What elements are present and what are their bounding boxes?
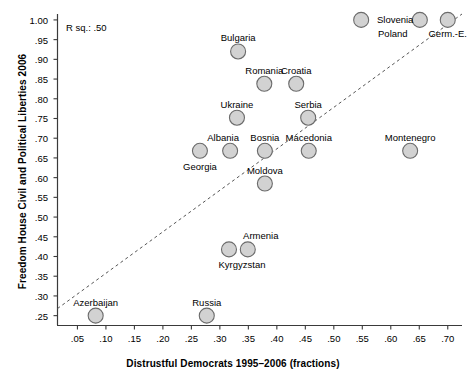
data-point-label: Georgia bbox=[183, 161, 217, 172]
data-point-marker[interactable] bbox=[257, 176, 272, 191]
x-axis-tick-label: .50 bbox=[327, 333, 340, 344]
data-point-label: Serbia bbox=[294, 99, 321, 110]
x-axis-tick-label: .25 bbox=[185, 333, 198, 344]
data-point-label: Albania bbox=[207, 132, 239, 143]
x-axis-title: Distrustful Democrats 1995–2006 (fractio… bbox=[0, 358, 466, 369]
data-point-marker[interactable] bbox=[440, 12, 455, 27]
x-axis-tick-label: .45 bbox=[299, 333, 312, 344]
data-point-label: Armenia bbox=[243, 230, 278, 241]
x-axis-tick-label: .70 bbox=[441, 333, 454, 344]
x-axis-tick-label: .05 bbox=[71, 333, 84, 344]
y-axis-title: Freedom House Civil and Political Libert… bbox=[17, 12, 28, 332]
x-axis-tick-label: .15 bbox=[128, 333, 141, 344]
data-point-marker[interactable] bbox=[229, 110, 244, 125]
x-axis-tick-label: .60 bbox=[384, 333, 397, 344]
y-axis-tick-label: .55 bbox=[8, 192, 48, 203]
data-point-marker[interactable] bbox=[289, 76, 304, 91]
y-axis-tick-label: .60 bbox=[8, 172, 48, 183]
data-point-marker[interactable] bbox=[301, 143, 316, 158]
x-axis-tick-label: .30 bbox=[213, 333, 226, 344]
y-axis-tick-label: .80 bbox=[8, 93, 48, 104]
y-axis-tick-label: .90 bbox=[8, 54, 48, 65]
data-point-label: Germ.-E. bbox=[428, 28, 467, 39]
data-point-label: Slovenia bbox=[377, 14, 413, 25]
data-point-label: Croatia bbox=[281, 65, 312, 76]
data-point-label: Ukraine bbox=[221, 99, 254, 110]
data-point-label: Bosnia bbox=[250, 132, 279, 143]
y-axis-tick-label: .70 bbox=[8, 133, 48, 144]
data-point-label: Russia bbox=[192, 297, 221, 308]
data-point-marker[interactable] bbox=[403, 143, 418, 158]
y-axis-tick-label: .65 bbox=[8, 152, 48, 163]
x-axis-tick-label: .35 bbox=[242, 333, 255, 344]
x-axis-tick-label: .10 bbox=[99, 333, 112, 344]
y-axis-tick-label: .75 bbox=[8, 113, 48, 124]
x-axis-tick-label: .40 bbox=[270, 333, 283, 344]
data-point-marker[interactable] bbox=[88, 308, 103, 323]
data-point-marker[interactable] bbox=[231, 44, 246, 59]
y-axis-tick-label: .30 bbox=[8, 290, 48, 301]
x-axis-tick-label: .65 bbox=[413, 333, 426, 344]
y-axis-tick-label: .40 bbox=[8, 251, 48, 262]
y-axis-tick-label: 1.00 bbox=[8, 14, 48, 25]
data-point-marker[interactable] bbox=[354, 12, 369, 27]
data-point-label: Macedonia bbox=[285, 132, 331, 143]
data-point-label: Kyrgyzstan bbox=[218, 259, 265, 270]
data-point-label: Azerbaijan bbox=[73, 297, 118, 308]
r-squared-annotation: R sq.: .50 bbox=[66, 22, 107, 33]
data-point-label: Montenegro bbox=[385, 132, 436, 143]
y-axis-tick-label: .95 bbox=[8, 34, 48, 45]
data-point-marker[interactable] bbox=[412, 12, 427, 27]
data-point-marker[interactable] bbox=[221, 242, 236, 257]
y-axis-tick-label: .50 bbox=[8, 212, 48, 223]
data-point-marker[interactable] bbox=[257, 76, 272, 91]
y-axis-tick-label: .85 bbox=[8, 74, 48, 85]
data-point-label: Romania bbox=[245, 65, 283, 76]
y-axis-tick-label: .35 bbox=[8, 271, 48, 282]
x-axis-tick-label: .20 bbox=[156, 333, 169, 344]
data-point-label: Bulgaria bbox=[221, 32, 256, 43]
data-point-label: Poland bbox=[378, 28, 408, 39]
x-axis-tick-label: .55 bbox=[356, 333, 369, 344]
data-point-marker[interactable] bbox=[223, 143, 238, 158]
data-point-marker[interactable] bbox=[240, 242, 255, 257]
data-point-marker[interactable] bbox=[199, 308, 214, 323]
data-point-marker[interactable] bbox=[301, 110, 316, 125]
data-point-marker[interactable] bbox=[192, 143, 207, 158]
data-point-marker[interactable] bbox=[257, 143, 272, 158]
y-axis-tick-label: .25 bbox=[8, 310, 48, 321]
data-point-label: Moldova bbox=[247, 165, 283, 176]
y-axis-tick-label: .45 bbox=[8, 231, 48, 242]
